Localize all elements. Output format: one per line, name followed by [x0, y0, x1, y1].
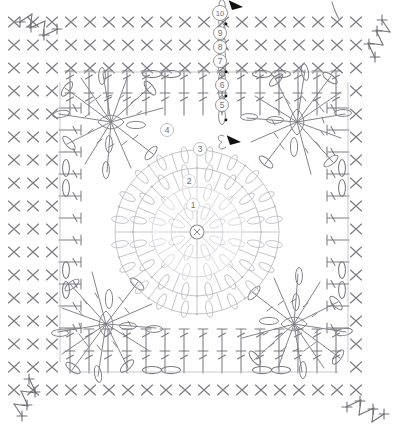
round-label-text: 7	[218, 56, 223, 66]
round-label-text: 8	[218, 42, 223, 52]
round-label-9: 9	[214, 27, 227, 40]
round-label-7: 7	[214, 55, 227, 68]
round-label-6: 6	[216, 79, 229, 92]
chart-canvas: 12345678910	[0, 0, 404, 436]
round-label-text: 1	[191, 200, 196, 210]
round-label-10: 10	[213, 6, 228, 21]
round-label-3: 3	[194, 143, 207, 156]
round-label-5: 5	[216, 99, 229, 112]
round-label-8: 8	[214, 41, 227, 54]
round-label-2: 2	[183, 175, 196, 188]
crochet-chart-diagram: 12345678910	[0, 0, 404, 436]
round-label-text: 10	[216, 9, 224, 18]
round-label-text: 5	[220, 100, 225, 110]
round-label-text: 4	[165, 125, 170, 135]
round-label-text: 9	[218, 28, 223, 38]
round-label-text: 2	[187, 176, 192, 186]
round-label-text: 3	[198, 144, 203, 154]
round-label-text: 6	[220, 80, 225, 90]
magic-ring	[190, 225, 204, 239]
round-label-1: 1	[187, 199, 200, 212]
round-label-4: 4	[161, 124, 174, 137]
